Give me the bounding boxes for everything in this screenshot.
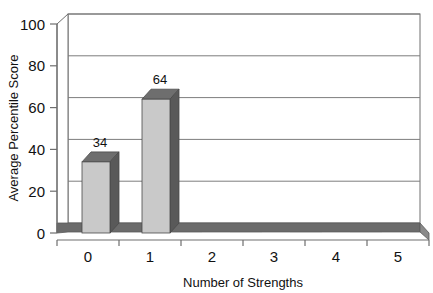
x-tick-label-2: 2 <box>208 248 216 265</box>
bar-front-face-3 <box>262 232 290 233</box>
bar-front-face-1 <box>142 99 170 233</box>
data-label-1: 64 <box>153 72 167 87</box>
bar-group-2[interactable] <box>202 232 230 233</box>
bar-front-face-0 <box>82 162 110 233</box>
bar-front-face-2 <box>202 232 230 233</box>
bar-group-4[interactable] <box>322 232 350 233</box>
y-axis-title: Average Percentile Score <box>6 54 21 201</box>
bar-group-5[interactable] <box>382 232 410 233</box>
y-tick-label-0: 0 <box>37 225 45 242</box>
bar-front-face-5 <box>382 232 410 233</box>
plot-back-wall <box>68 14 420 223</box>
bar-side-face-0 <box>110 152 119 233</box>
chart-canvas: 100 80 60 40 20 0 <box>0 0 433 293</box>
bar-front-face-4 <box>322 232 350 233</box>
bar-side-face-1 <box>170 89 179 233</box>
data-label-0: 34 <box>93 135 107 150</box>
x-tick-label-5: 5 <box>394 248 402 265</box>
x-tick-label-3: 3 <box>270 248 278 265</box>
x-axis-title: Number of Strengths <box>183 275 303 290</box>
y-tick-label-20: 20 <box>28 183 45 200</box>
x-tick-label-0: 0 <box>84 248 92 265</box>
y-tick-label-40: 40 <box>28 141 45 158</box>
bar-group-3[interactable] <box>262 232 290 233</box>
y-tick-label-100: 100 <box>20 16 45 33</box>
y-tick-label-80: 80 <box>28 57 45 74</box>
x-tick-label-1: 1 <box>146 248 154 265</box>
bar-chart: 100 80 60 40 20 0 <box>0 0 433 293</box>
y-tick-label-60: 60 <box>28 99 45 116</box>
plot-left-depth-face <box>57 14 68 233</box>
x-tick-label-4: 4 <box>332 248 340 265</box>
bar-group-1[interactable] <box>142 89 179 233</box>
bar-group-0[interactable] <box>82 152 119 233</box>
